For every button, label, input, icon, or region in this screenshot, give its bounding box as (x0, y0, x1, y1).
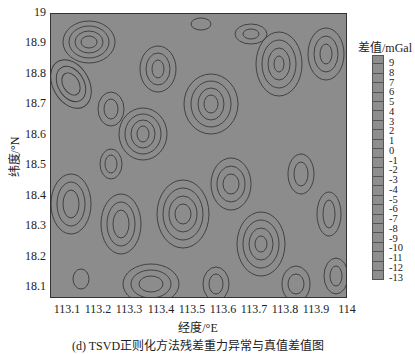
colorbar-cell (372, 93, 384, 102)
y-tick: 18.2 (25, 249, 46, 264)
colorbar-cell (372, 168, 384, 177)
x-tick: 113.6 (210, 302, 237, 317)
x-tick: 113.7 (241, 302, 268, 317)
colorbar-cell (372, 186, 384, 195)
x-tick: 113.1 (54, 302, 81, 317)
colorbar-cell (372, 83, 384, 92)
colorbar-cell (372, 252, 384, 261)
x-axis-label: 经度/°E (178, 318, 217, 336)
y-tick: 18.8 (25, 66, 46, 81)
colorbar-cell (372, 64, 384, 73)
colorbar-cell (372, 140, 384, 149)
colorbar-cell (372, 243, 384, 252)
colorbar-cell (372, 102, 384, 111)
x-tick: 114 (338, 302, 356, 317)
x-tick: 113.2 (85, 302, 112, 317)
y-tick: 18.7 (25, 96, 46, 111)
colorbar (372, 55, 384, 280)
colorbar-cell (372, 111, 384, 120)
y-tick: 18.6 (25, 127, 46, 142)
colorbar-cell (372, 271, 384, 280)
y-tick: 19 (34, 5, 46, 20)
contour-lines (51, 14, 347, 298)
colorbar-title: 差值/mGal (358, 38, 412, 56)
colorbar-label: -13 (389, 273, 403, 283)
figure-caption: (d) TSVD正则化方法残差重力异常与真值差值图 (72, 336, 324, 354)
colorbar-cell (372, 205, 384, 214)
colorbar-cell (372, 74, 384, 83)
colorbar-cell (372, 262, 384, 271)
x-tick: 113.8 (272, 302, 299, 317)
colorbar-cell (372, 215, 384, 224)
colorbar-cell (372, 55, 384, 64)
y-tick: 18.5 (25, 157, 46, 172)
colorbar-cell (372, 196, 384, 205)
colorbar-cell (372, 158, 384, 167)
y-axis-label: 纬度/°N (5, 137, 23, 178)
colorbar-cell (372, 130, 384, 139)
colorbar-cell (372, 177, 384, 186)
colorbar-cell (372, 121, 384, 130)
y-tick: 18.1 (25, 279, 46, 294)
x-tick: 113.9 (303, 302, 330, 317)
y-tick: 18.4 (25, 188, 46, 203)
colorbar-cell (372, 149, 384, 158)
x-tick: 113.3 (116, 302, 143, 317)
contour-plot-area (50, 13, 347, 298)
y-tick: 18.3 (25, 218, 46, 233)
y-tick: 18.9 (25, 35, 46, 50)
x-tick: 113.4 (148, 302, 175, 317)
colorbar-cell (372, 224, 384, 233)
colorbar-cell (372, 233, 384, 242)
x-tick: 113.5 (179, 302, 206, 317)
